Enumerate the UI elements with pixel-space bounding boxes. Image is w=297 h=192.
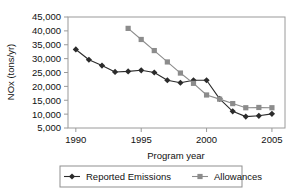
y-axis-tick-label: 35,000 [32,39,61,50]
data-point [256,105,261,110]
y-axis-tick-label: 5,000 [37,122,61,133]
data-point [99,62,105,68]
legend-item: Reported Emissions [64,171,171,182]
legend-marker-diamond [69,173,75,179]
plot-area-frame [68,17,285,128]
data-series-layer [73,26,275,120]
data-point [230,101,235,106]
y-axis-tick-label: 15,000 [32,95,61,106]
series-allowances [126,26,275,111]
data-point [269,111,275,117]
x-axis-tick-label: 1995 [131,134,152,145]
x-axis: 1990199520002005 [65,128,282,145]
data-point [243,114,249,120]
data-point [126,26,131,31]
data-point [151,69,157,75]
data-point [178,70,183,75]
data-point [256,113,262,119]
data-point [191,81,196,86]
data-point [165,59,170,64]
data-point [152,48,157,53]
x-axis-title: Program year [147,150,205,161]
legend-items: Reported EmissionsAllowances [64,171,262,182]
y-axis-tick-label: 20,000 [32,81,61,92]
legend-item: Allowances [192,171,262,182]
x-axis-tick-label: 1990 [65,134,86,145]
data-point [112,69,118,75]
data-point [139,37,144,42]
chart-legend: Reported EmissionsAllowances [60,166,262,187]
y-axis-tick-label: 45,000 [32,11,61,22]
legend-marker-square [197,174,202,179]
legend-label: Reported Emissions [86,171,171,182]
data-point [243,105,248,110]
data-point [217,97,222,102]
data-point [204,92,209,97]
x-axis-tick-label: 2005 [261,134,282,145]
legend-label: Allowances [214,171,262,182]
data-point [269,105,274,110]
data-point [177,80,183,86]
chart-svg: 5,00010,00015,00020,00025,00030,00035,00… [0,0,297,192]
series-line [128,28,272,107]
y-axis-tick-label: 25,000 [32,67,61,78]
x-axis-tick-label: 2000 [196,134,217,145]
chart-figure: 5,00010,00015,00020,00025,00030,00035,00… [0,0,297,192]
y-axis-tick-label: 10,000 [32,109,61,120]
data-point [125,68,131,74]
y-axis-tick-label: 30,000 [32,53,61,64]
y-axis-tick-label: 40,000 [32,25,61,36]
data-point [138,67,144,73]
data-point [164,77,170,83]
y-axis: 5,00010,00015,00020,00025,00030,00035,00… [32,11,68,133]
y-axis-title: NOx (tons/yr) [5,44,16,100]
